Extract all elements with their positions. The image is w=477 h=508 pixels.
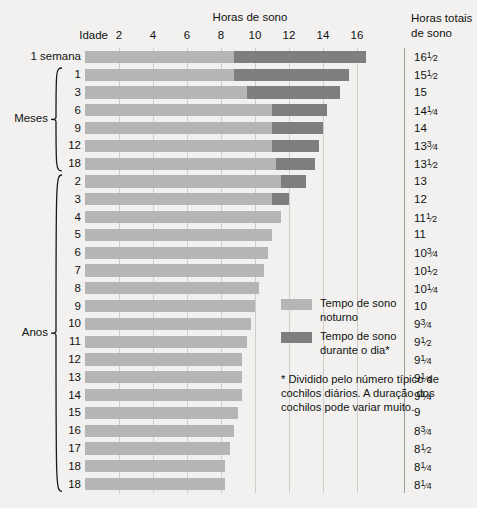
bar-segment-night [85,389,242,401]
legend-label-night: Tempo de sono noturno [320,297,421,324]
total-hours-value: 81⁄2 [414,442,431,455]
bar-row [85,86,368,98]
total-hours-value: 11 [414,228,426,240]
x-axis-tick-2: 2 [116,29,122,41]
bar-segment-night [85,300,255,312]
age-label: 15 [9,406,81,418]
age-label: 14 [9,389,81,401]
bar-segment-night [85,371,242,383]
age-label: 3 [9,86,81,98]
bar-segment-day [247,86,341,98]
sleep-hours-chart: Horas de sono Idade Horas totais de sono… [0,0,477,508]
age-label: 12 [9,353,81,365]
bar-segment-night [85,140,272,152]
column-header-total-hours-line1: Horas totais [411,11,477,26]
age-label: 17 [9,442,81,454]
bar-row [85,122,368,134]
age-label: 13 [9,371,81,383]
total-hours-value: 103⁄4 [414,246,438,259]
bar-segment-day [234,69,349,81]
bar-segment-night [85,158,276,170]
bar-segment-night [85,353,242,365]
age-label: 12 [9,139,81,151]
age-label: 1 [9,68,81,80]
x-axis-tick-8: 8 [218,29,224,41]
bar-segment-day [272,140,319,152]
bar-segment-night [85,460,225,472]
bar-segment-night [85,425,234,437]
x-axis-tick-4: 4 [150,29,156,41]
age-label: 16 [9,424,81,436]
x-axis-tick-6: 6 [184,29,190,41]
plot-area [85,48,368,493]
age-label: 7 [9,264,81,276]
legend-item-night: Tempo de sono noturno [281,297,421,324]
group-label-meses: Meses [0,112,48,124]
age-label: 18 [9,478,81,490]
bar-segment-night [85,264,264,276]
total-hours-value: 83⁄4 [414,424,431,437]
bar-row [85,282,368,294]
total-hours-value: 15 [414,86,427,98]
legend-swatch-day-icon [281,332,312,343]
bar-row [85,247,368,259]
legend-swatch-night-icon [281,299,312,310]
age-label: 8 [9,282,81,294]
total-hours-value: 161⁄2 [414,50,438,63]
bar-segment-night [85,407,238,419]
bar-segment-night [85,122,272,134]
bar-row [85,193,368,205]
bar-segment-day [234,51,366,63]
column-header-age: Idade [48,29,108,41]
bar-segment-day [276,158,314,170]
bar-row [85,175,368,187]
bar-segment-night [85,229,272,241]
bar-segment-night [85,193,272,205]
bar-segment-night [85,247,268,259]
total-hours-value: 81⁄4 [414,460,431,473]
legend-label-day: Tempo de sono durante o dia* [320,330,421,357]
bar-segment-day [272,193,289,205]
group-label-anos: Anos [0,326,48,338]
age-label: 18 [9,460,81,472]
age-label: 18 [9,157,81,169]
bar-segment-night [85,282,259,294]
age-label: 3 [9,193,81,205]
footnote-text: * Dividido pelo número típico de cochilo… [281,372,446,414]
bar-row [85,69,368,81]
age-label: 2 [9,175,81,187]
group-brace-meses [50,67,64,172]
x-axis-tick-16: 16 [351,29,364,41]
bar-row [85,104,368,116]
bar-row [85,425,368,437]
total-hours-value: 101⁄4 [414,282,438,295]
bar-segment-night [85,442,230,454]
x-axis-tick-14: 14 [317,29,330,41]
legend: Tempo de sono noturno Tempo de sono dura… [281,297,421,363]
age-label: 5 [9,228,81,240]
bar-segment-night [85,478,225,490]
bar-row [85,460,368,472]
legend-item-day: Tempo de sono durante o dia* [281,330,421,357]
x-axis-tick-10: 10 [249,29,262,41]
bar-segment-night [85,336,247,348]
bar-segment-day [281,175,307,187]
total-hours-column: 161⁄2151⁄215141⁄414133⁄4131⁄21312111⁄211… [404,48,477,493]
total-hours-value: 12 [414,193,427,205]
total-hours-value: 111⁄2 [414,211,437,224]
total-hours-value: 151⁄2 [414,68,438,81]
age-label: 1 semana [9,50,81,62]
bar-segment-night [85,104,272,116]
bar-segment-night [85,211,281,223]
bar-segment-night [85,86,247,98]
age-label: 4 [9,211,81,223]
x-axis-tick-12: 12 [283,29,296,41]
total-hours-value: 14 [414,122,427,134]
bar-segment-day [272,104,327,116]
total-column-divider [404,48,405,493]
age-label: 9 [9,300,81,312]
bar-segment-night [85,69,234,81]
chart-title-hours-axis: Horas de sono [190,11,310,23]
total-hours-value: 133⁄4 [414,139,438,152]
total-hours-value: 81⁄4 [414,478,431,491]
